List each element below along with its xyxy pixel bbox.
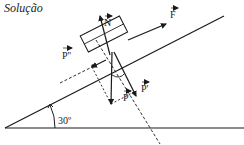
inclined-plane-diagram: 30º N F P'' P P' xyxy=(0,0,244,145)
component-dashed-p xyxy=(92,67,111,104)
label-p1: P' xyxy=(141,82,149,94)
incline-line xyxy=(5,16,224,128)
label-n: N xyxy=(104,16,112,28)
svg-text:P: P xyxy=(123,92,129,103)
angle-label: 30º xyxy=(58,115,71,126)
parallel-dashed-line xyxy=(60,67,92,83)
label-p: P xyxy=(123,91,131,103)
force-f-arrow xyxy=(128,24,166,40)
svg-text:P'': P'' xyxy=(62,50,71,61)
svg-text:F: F xyxy=(170,9,176,20)
svg-text:P': P' xyxy=(141,83,149,94)
svg-text:N: N xyxy=(104,17,111,28)
component-dashed-p2 xyxy=(111,93,132,104)
label-p2: P'' xyxy=(62,48,72,61)
label-f: F xyxy=(170,8,178,20)
angle-arc xyxy=(50,105,55,128)
force-p-arrow xyxy=(111,52,112,104)
